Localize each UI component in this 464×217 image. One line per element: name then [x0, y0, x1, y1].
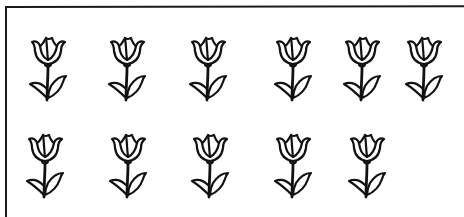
frame-left-border: [5, 6, 7, 217]
tulip-drawing: [340, 36, 384, 102]
tulip-icon: [26, 36, 70, 102]
tulip-drawing: [345, 133, 389, 199]
tulip-drawing: [188, 133, 232, 199]
tulip-icon: [402, 36, 446, 102]
tulip-drawing: [106, 133, 150, 199]
tulip-icon: [271, 133, 315, 199]
tulip-icon: [186, 36, 230, 102]
tulip-icon: [106, 133, 150, 199]
tulip-drawing: [26, 36, 70, 102]
tulip-icon: [345, 133, 389, 199]
tulip-icon: [23, 133, 67, 199]
tulip-drawing: [186, 36, 230, 102]
tulip-drawing: [105, 36, 149, 102]
tulip-icon: [340, 36, 384, 102]
tulip-icon: [105, 36, 149, 102]
tulip-drawing: [23, 133, 67, 199]
tulip-drawing: [402, 36, 446, 102]
tulip-icon: [271, 36, 315, 102]
frame-top-border: [5, 5, 464, 8]
tulip-drawing: [271, 36, 315, 102]
tulip-drawing: [271, 133, 315, 199]
tulip-icon: [188, 133, 232, 199]
